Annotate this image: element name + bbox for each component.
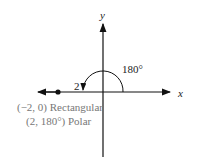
y-axis-label: y [100,10,105,21]
point-marker [55,89,60,94]
angle-label: 180° [122,64,143,75]
polar-coordinates-label: (2, 180°) Polar [26,116,91,127]
rectangular-coordinates-label: (−2, 0) Rectangular [17,102,103,113]
x-axis-label: x [178,88,183,99]
radius-label: 2 [74,81,80,92]
polar-coordinate-diagram [0,0,197,157]
